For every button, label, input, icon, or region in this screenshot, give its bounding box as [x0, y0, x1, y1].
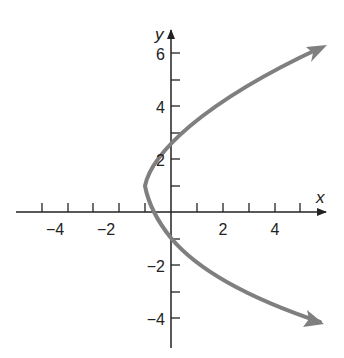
x-tick-label: 2 — [219, 221, 228, 238]
y-tick-label: −2 — [147, 258, 165, 275]
y-axis-label: y — [154, 25, 165, 44]
x-tick-label: 4 — [271, 221, 280, 238]
x-tick-label: −4 — [46, 221, 64, 238]
y-tick-label: 6 — [156, 46, 165, 63]
y-tick-label: 2 — [156, 152, 165, 169]
x-tick-label: −2 — [97, 221, 115, 238]
y-tick-label: −4 — [147, 311, 165, 328]
y-ticks — [171, 53, 180, 318]
y-tick-label: 4 — [156, 99, 165, 116]
x-axis-label: x — [315, 188, 325, 207]
chart-canvas: x y −4 −2 2 4 6 4 2 −2 −4 — [0, 0, 344, 358]
